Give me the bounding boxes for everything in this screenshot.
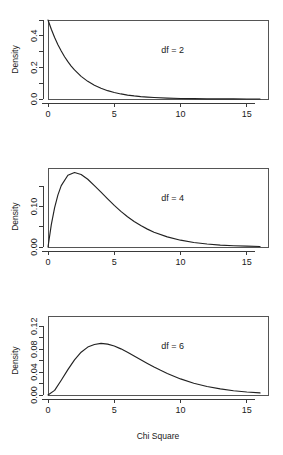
x-tick-label: 0 <box>45 257 50 267</box>
density-curve <box>48 343 260 395</box>
plot-box <box>48 20 268 99</box>
y-tick-label: 0.04 <box>29 363 39 381</box>
y-tick-label: 0.00 <box>29 386 39 404</box>
x-tick-label: 15 <box>242 257 252 267</box>
y-axis-title: Density <box>10 45 20 74</box>
x-tick-label: 5 <box>112 257 117 267</box>
x-tick-label: 15 <box>242 405 252 415</box>
density-panel-3: 0510150.000.040.080.12DensityChi Squared… <box>0 296 283 455</box>
plot-box <box>48 316 268 395</box>
df-annotation: df = 4 <box>161 193 184 203</box>
y-axis-title: Density <box>10 346 20 375</box>
x-tick-label: 5 <box>112 405 117 415</box>
x-tick-label: 10 <box>176 109 186 119</box>
df-annotation: df = 6 <box>161 341 184 351</box>
density-curve <box>48 173 260 248</box>
y-tick-label: 0.12 <box>29 318 39 336</box>
density-panel-2: 0510150.000.10Densitydf = 4 <box>0 148 283 296</box>
x-tick-label: 15 <box>242 109 252 119</box>
x-tick-label: 5 <box>112 109 117 119</box>
x-tick-label: 10 <box>176 405 186 415</box>
x-tick-label: 0 <box>45 405 50 415</box>
panel-canvas-2: 0510150.000.10Densitydf = 4 <box>0 148 283 296</box>
y-tick-label: 0.08 <box>29 340 39 358</box>
plot-box <box>48 168 268 247</box>
df-annotation: df = 2 <box>161 45 184 55</box>
panel-canvas-3: 0510150.000.040.080.12DensityChi Squared… <box>0 296 283 455</box>
x-tick-label: 10 <box>176 257 186 267</box>
density-panel-1: 0510150.00.20.4Densitydf = 2 <box>0 0 283 148</box>
x-axis-title: Chi Square <box>137 431 180 441</box>
x-tick-label: 0 <box>45 109 50 119</box>
y-tick-label: 0.4 <box>29 30 39 43</box>
density-curve <box>48 20 260 99</box>
y-axis-title: Density <box>10 202 20 231</box>
y-tick-label: 0.0 <box>29 93 39 106</box>
y-tick-label: 0.10 <box>29 198 39 216</box>
chi-square-density-figure: 0510150.00.20.4Densitydf = 20510150.000.… <box>0 0 283 455</box>
y-tick-label: 0.2 <box>29 61 39 74</box>
y-tick-label: 0.00 <box>29 238 39 256</box>
panel-canvas-1: 0510150.00.20.4Densitydf = 2 <box>0 0 283 148</box>
